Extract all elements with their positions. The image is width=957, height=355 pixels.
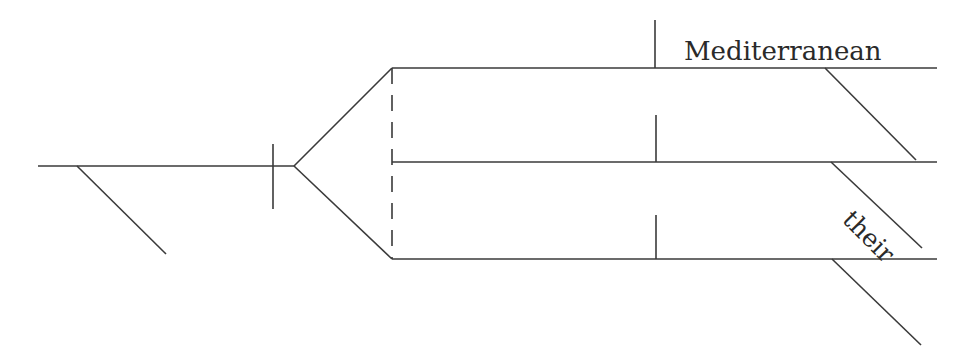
modifier-slant-top <box>825 68 916 160</box>
subject-modifier-slant <box>77 166 166 254</box>
word-mediterranean: Mediterranean <box>684 38 882 64</box>
modifier-slant-bottom <box>832 259 921 345</box>
fork-lower-branch <box>294 166 392 259</box>
fork-upper-branch <box>294 68 392 166</box>
